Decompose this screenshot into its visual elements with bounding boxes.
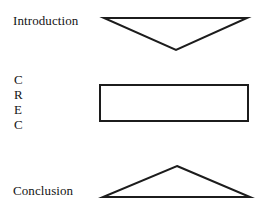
- conclusion-triangle-shape: [103, 166, 250, 197]
- shape-layer: [0, 0, 262, 215]
- introduction-inverted-triangle-shape: [104, 18, 247, 50]
- essay-structure-diagram: Introduction C R E C Conclusion: [0, 0, 262, 215]
- crec-rectangle-shape: [100, 85, 248, 121]
